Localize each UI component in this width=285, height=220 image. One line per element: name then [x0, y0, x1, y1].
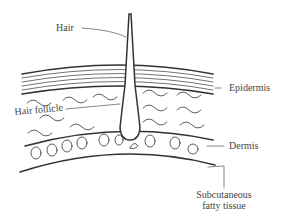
- label-hair: Hair: [56, 22, 74, 33]
- hair-and-follicle: [120, 14, 140, 140]
- label-subcutaneous-line1: Subcutaneous: [192, 189, 256, 200]
- subcutaneous-bottom-line: [20, 154, 215, 172]
- skin-diagram: Hair Epidermis Hair follicle Dermis Subc…: [0, 0, 285, 220]
- leader-lines: [66, 28, 224, 188]
- label-subcutaneous-line2: fatty tissue: [192, 200, 256, 211]
- label-subcutaneous: Subcutaneous fatty tissue: [192, 189, 256, 211]
- label-epidermis: Epidermis: [229, 82, 270, 93]
- fat-cells: [31, 134, 198, 159]
- label-dermis: Dermis: [229, 140, 258, 151]
- epidermis-bottom-line: [22, 86, 213, 94]
